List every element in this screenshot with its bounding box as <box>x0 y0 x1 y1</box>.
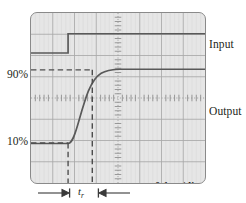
rise-time-annotation: tr <box>36 184 132 202</box>
timebase-caption: 0.1 µs/div <box>155 181 200 184</box>
oscilloscope-figure: 0.1 µs/div 90% 10% Input Output tr <box>0 0 246 203</box>
legend-label-output: Output <box>209 106 242 118</box>
legend-label-input: Input <box>209 39 234 51</box>
scope-trace-canvas <box>31 13 205 183</box>
rise-time-dimension-arrows <box>36 184 132 202</box>
rise-time-symbol: tr <box>78 187 84 200</box>
label-90-percent: 90% <box>0 69 28 81</box>
oscilloscope-screen: 0.1 µs/div <box>30 12 206 184</box>
label-10-percent: 10% <box>0 136 28 148</box>
rise-time-symbol-subscript: r <box>81 191 84 200</box>
